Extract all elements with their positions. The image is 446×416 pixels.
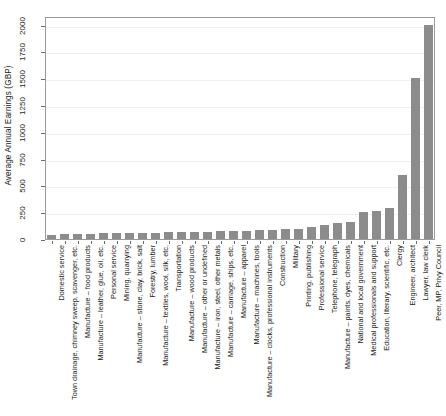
x-tick-label: Manufacture – stone, clay, brick, salt [133,127,147,245]
x-tick-label-text: Clergy [393,245,407,266]
y-tick-label-text: 250 [15,207,31,220]
x-tick-label-text: Manufacture – carriage, ships, etc. [224,245,238,357]
x-tick-label: Forestry, lumber [146,192,160,245]
x-tick-label-text: Manufacture – wood products [185,245,199,341]
x-tick-label: Lawyer, law clerk [419,189,433,245]
x-tick-label: Engineer, architect [406,185,420,245]
x-tick-label: Personal service [107,191,121,245]
x-tick-label-text: Military [289,245,303,268]
x-tick-label: Education, literary, scientific, etc. [380,139,394,245]
x-tick-mark [208,241,209,244]
x-tick-label-text: Manufacture – clocks, professional instr… [263,245,277,397]
x-tick-label: Manufacture – leather, glue, oil, etc. [94,129,108,245]
x-tick-label: Manufacture – food products [81,152,95,245]
x-tick-label: Manufacture – clocks, professional instr… [263,93,277,245]
y-tick-label: 1500 [7,71,39,87]
x-tick-label: Manufacture – textiles, wool, silk, etc. [159,124,173,245]
x-tick-label-text: Engineer, architect [406,245,420,305]
x-tick-label: Manufacture – iron, steel, other metals [211,120,225,245]
x-tick-mark [182,241,183,244]
x-tick-mark [143,241,144,244]
x-tick-mark [117,241,118,244]
x-tick-mark [169,241,170,244]
y-tick-label: 1000 [7,125,39,141]
y-tick-label-text: 0 [15,238,31,242]
x-tick-mark [52,241,53,244]
x-tick-label-text: Manufacture – other or undefined [198,245,212,353]
x-tick-label-text: Manufacture – paints, dyes, chemicals [341,245,355,369]
x-tick-label: Manufacture – carriage, ships, etc. [224,133,238,245]
x-tick-label-text: Manufacture – stone, clay, brick, salt [133,245,147,363]
x-tick-mark [299,241,300,244]
x-tick-label-text: Peer, MP, Privy Council [432,245,446,321]
x-tick-mark [195,241,196,244]
x-tick-label-text: Manufacture – apparel [237,245,251,318]
x-tick-label-text: Medical professionals and support [367,245,381,356]
x-tick-label: National and local government [354,146,368,245]
x-tick-mark [104,241,105,244]
x-tick-label-text: Lawyer, law clerk [419,245,433,301]
x-tick-label: Construction [276,204,290,245]
y-tick-label-text: 1500 [15,70,31,88]
x-tick-label-text: Manufacture – iron, steel, other metals [211,245,225,370]
x-tick-label-text: Personal service [107,245,121,299]
y-tick-label-text: 1250 [15,97,31,115]
x-tick-label: Medical professionals and support [367,134,381,245]
x-tick-mark [351,241,352,244]
x-tick-label-text: Education, literary, scientific, etc. [380,245,394,351]
y-tick-label: 750 [7,152,39,168]
x-tick-label-text: Manufacture – textiles, wool, silk, etc. [159,245,173,366]
x-tick-label-text: Printing, publishing [302,245,316,307]
y-tick-label-text: 2000 [15,17,31,35]
y-tick-label-text: 500 [15,180,31,193]
x-tick-label-text: Manufacture – food products [81,245,95,338]
x-tick-label-text: Transportation [172,245,186,292]
x-tick-mark [364,241,365,244]
x-tick-label-text: Manufacture – machines, tools [250,245,264,344]
x-tick-label: Manufacture – machines, tools [250,146,264,245]
x-tick-mark [325,241,326,244]
x-tick-mark [260,241,261,244]
x-tick-label: Manufacture – other or undefined [198,137,212,245]
x-tick-mark [247,241,248,244]
y-tick-label: 2000 [7,18,39,34]
x-tick-mark [338,241,339,244]
x-tick-label-text: Professional service [315,245,329,310]
x-tick-mark [234,241,235,244]
x-tick-label: Telephone, telegraph [328,177,342,245]
y-tick-label-text: 750 [15,153,31,166]
x-tick-label-text: Forestry, lumber [146,245,160,298]
x-tick-label-text: Construction [276,245,290,286]
y-tick-label: 0 [7,232,39,248]
y-tick-label: 250 [7,205,39,221]
y-tick-label: 1250 [7,98,39,114]
x-tick-mark [130,241,131,244]
x-tick-label: Professional service [315,180,329,245]
x-tick-label: Manufacture – apparel [237,172,251,245]
x-tick-label: Town drainage, chimney sweep, scavenger,… [68,90,82,245]
x-tick-label-text: National and local government [354,245,368,344]
y-tick-mark [41,240,45,241]
x-tick-label-text: Mining, quarrying [120,245,134,301]
x-tick-label: Printing, publishing [302,183,316,245]
x-tick-label: Manufacture – wood products [185,149,199,245]
x-tick-label: Mining, quarrying [120,189,134,245]
x-tick-mark [156,241,157,244]
x-tick-mark [416,241,417,244]
x-tick-label: Military [289,222,303,245]
x-tick-mark [429,241,430,244]
y-tick-label-text: 1750 [15,43,31,61]
x-tick-label: Transportation [172,198,186,245]
x-tick-mark [78,241,79,244]
y-tick-label-text: 1000 [15,124,31,142]
x-tick-label-text: Telephone, telegraph [328,245,342,313]
x-tick-label-text: Town drainage, chimney sweep, scavenger,… [68,245,82,400]
x-tick-mark [377,241,378,244]
y-tick-label: 1750 [7,44,39,60]
x-tick-label: Peer, MP, Privy Council [432,169,446,245]
x-tick-mark [221,241,222,244]
x-tick-mark [286,241,287,244]
x-tick-label: Domestic service [55,189,69,245]
x-tick-mark [403,241,404,244]
